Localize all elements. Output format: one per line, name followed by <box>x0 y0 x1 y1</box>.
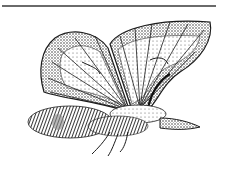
moth-illustration <box>0 0 232 171</box>
moth-body <box>28 105 200 138</box>
